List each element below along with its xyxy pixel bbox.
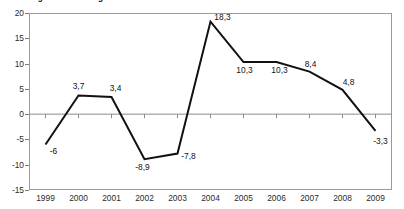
x-axis-tick-label: 2009 [356, 194, 396, 203]
y-axis-tick-label: 0 [0, 110, 24, 118]
zero-axis-ticks [46, 114, 376, 118]
line-chart: Abbildung 2: Veränderung BIP 1999-2009 i… [0, 0, 404, 209]
y-axis-tick-label: -5 [0, 135, 24, 143]
series-line [46, 22, 376, 160]
y-axis-tick-mark [25, 190, 29, 191]
chart-title: Abbildung 2: Veränderung BIP 1999-2009 i… [3, 0, 303, 5]
y-axis-tick-label: 15 [0, 34, 24, 42]
zero-line-group [29, 114, 392, 118]
y-axis-tick-label: -15 [0, 186, 24, 194]
y-axis-tick-label: 5 [0, 85, 24, 93]
y-axis-tick-label: 10 [0, 60, 24, 68]
y-axis-tick-label: 20 [0, 9, 24, 17]
y-axis-tick-label: -10 [0, 161, 24, 169]
plot-svg [29, 13, 392, 190]
